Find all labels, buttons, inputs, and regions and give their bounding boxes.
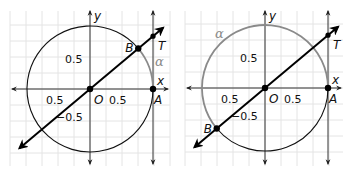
point-o	[262, 85, 268, 91]
tick-label-x-pos: 0.5	[284, 93, 302, 106]
tick-label-y-pos: 0.5	[240, 52, 258, 65]
tick-label-x-neg: 0.5	[221, 93, 239, 106]
point-b-label: B	[125, 41, 133, 55]
unit-circle-figure: y x O A B T α 0.5 0.5 0.5 −0.5 y x O A B…	[0, 0, 345, 171]
panel-right: y x O A B T α 0.5 0.5 0.5 −0.5	[185, 9, 343, 166]
tick-label-x-neg: 0.5	[46, 94, 64, 107]
origin-label: O	[269, 92, 278, 106]
point-b	[135, 45, 141, 51]
point-a-label: A	[328, 92, 337, 106]
x-axis-label: x	[156, 74, 165, 88]
alpha-label: α	[215, 26, 224, 41]
tick-label-x-pos: 0.5	[109, 94, 127, 107]
point-b	[214, 125, 220, 131]
point-a-label: A	[153, 93, 162, 107]
y-axis-label: y	[93, 9, 102, 23]
panel-left: y x O A B T α 0.5 0.5 0.5 −0.5	[10, 9, 170, 166]
tick-label-y-neg: −0.5	[56, 111, 83, 124]
point-o	[87, 86, 93, 92]
alpha-label: α	[155, 54, 164, 69]
y-axis-label: y	[268, 9, 277, 23]
tick-label-y-neg: −0.5	[231, 110, 258, 123]
x-axis-label: x	[331, 73, 340, 87]
origin-label: O	[94, 93, 103, 107]
point-a	[325, 85, 331, 91]
point-a	[150, 86, 156, 92]
point-t	[325, 33, 330, 38]
point-t	[150, 34, 155, 39]
alpha-arc	[138, 49, 153, 89]
tick-label-y-pos: 0.5	[65, 53, 83, 66]
point-b-label: B	[204, 122, 212, 136]
